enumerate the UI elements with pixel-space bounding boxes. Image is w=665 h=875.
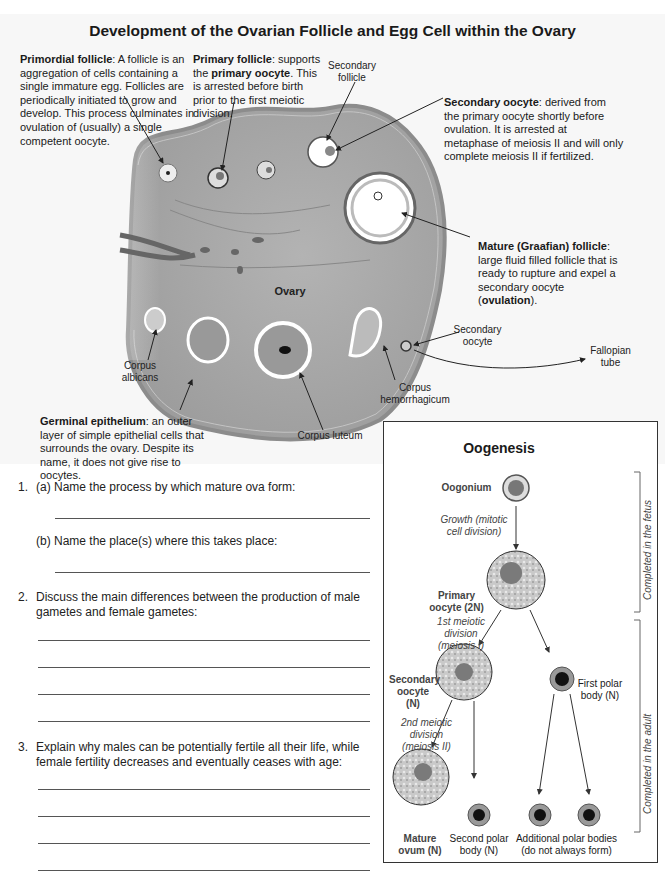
q3-answer-line[interactable] (38, 870, 370, 871)
label-fallopian-tube: Fallopian tube (583, 345, 638, 369)
primary-follicle-note: Primary follicle: supports the primary o… (193, 53, 323, 121)
label-oogonium: Oogonium (434, 482, 499, 494)
label-mature-ovum: Mature ovum (N) (396, 833, 444, 857)
label-growth: Growth (mitotic cell division) (439, 514, 509, 538)
secondary-oocyte-note: Secondary oocyte: derived from the prima… (444, 96, 624, 164)
q3-answer-line[interactable] (38, 843, 370, 844)
label-additional-polar-bodies: Additional polar bodies (do not always f… (514, 833, 619, 857)
q2-text: Discuss the main differences between the… (36, 590, 366, 620)
oogenesis-flow (384, 422, 657, 862)
germinal-epithelium-note: Germinal epithelium: an outer layer of s… (40, 415, 215, 483)
q2-answer-line[interactable] (38, 721, 370, 722)
oogenesis-panel: Oogenesis Oogonium Growth (mito (383, 421, 658, 863)
q2-answer-line[interactable] (38, 667, 370, 668)
primordial-follicle-note: Primordial follicle: A follicle is an ag… (20, 53, 195, 148)
q3-answer-line[interactable] (38, 816, 370, 817)
q1a-answer-line[interactable] (55, 518, 370, 519)
bracket-adult-label: Completed in the adult (642, 714, 653, 814)
label-meiosis-1: 1st meiotic division (meiosis I) (426, 616, 496, 652)
q3-number: 3. (18, 740, 28, 755)
q3-answer-line[interactable] (38, 789, 370, 790)
label-corpus-albicans: Corpus albicans (115, 360, 165, 384)
label-corpus-hemorrhagicum: Corpus hemorrhagicum (380, 382, 450, 406)
label-secondary-follicle: Secondary follicle (322, 60, 382, 84)
label-first-polar-body: First polar body (N) (576, 678, 624, 702)
q1a-text: (a) Name the process by which mature ova… (36, 480, 366, 495)
q1-number: 1. (18, 480, 28, 495)
q2-number: 2. (18, 590, 28, 605)
bracket-fetus-label: Completed in the fetus (642, 500, 653, 600)
worksheet-page: Development of the Ovarian Follicle and … (0, 0, 665, 875)
label-second-polar-body: Second polar body (N) (449, 833, 509, 857)
q2-answer-line[interactable] (38, 640, 370, 641)
label-secondary-oocyte-n: Secondary oocyte (N) (389, 674, 437, 710)
label-secondary-oocyte: Secondary oocyte (450, 324, 505, 348)
label-primary-oocyte: Primary oocyte (2N) (424, 590, 489, 614)
q3-text: Explain why males can be potentially fer… (36, 740, 376, 770)
label-ovary: Ovary (260, 285, 320, 297)
mature-follicle-note: Mature (Graafian) follicle: large fluid … (478, 240, 623, 308)
label-corpus-luteum: Corpus luteum (290, 430, 370, 442)
q1b-answer-line[interactable] (55, 572, 370, 573)
label-meiosis-2: 2nd meiotic division (meiosis II) (399, 717, 454, 753)
q2-answer-line[interactable] (38, 694, 370, 695)
q1b-text: (b) Name the place(s) where this takes p… (36, 534, 366, 549)
